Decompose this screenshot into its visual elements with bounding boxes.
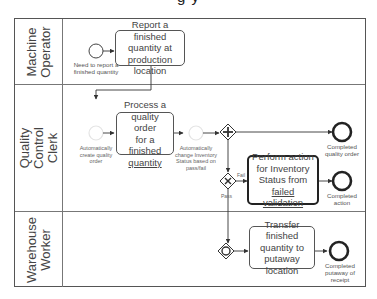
task-transfer-to-putaway[interactable]: Transfer finishedquantity toputaway loca…	[249, 226, 315, 269]
pass-flow-label: Pass	[221, 193, 232, 199]
parallel-gateway-icon	[220, 124, 236, 140]
auto-change-label: Automatically change Inventory Status ba…	[171, 145, 221, 171]
fail-flow-label: Fail	[237, 172, 245, 178]
task-process-quality-order[interactable]: Process aquality orderfor a finishedquan…	[116, 112, 174, 155]
intermediate-event-icon	[89, 126, 103, 140]
exclusive-gateway-icon	[220, 173, 236, 189]
end-putaway-label: Completed putaway of receipt	[320, 262, 360, 284]
auto-create-label: Automatically create quality order	[73, 145, 119, 165]
start-event-icon	[89, 44, 103, 58]
end-action-label: Completed action	[322, 192, 362, 206]
end-quality-order-label: Completed quality order	[319, 143, 365, 157]
end-event-icon	[330, 242, 348, 260]
intermediate-event-icon	[189, 126, 203, 140]
task-report-finished-quantity[interactable]: Report a finishedquantity atproductionlo…	[115, 30, 185, 66]
event-gateway-icon	[218, 243, 234, 259]
end-event-icon	[333, 123, 351, 141]
task-perform-action-inventory-status[interactable]: Perform actionfor InventoryStatus fromfa…	[247, 155, 319, 205]
end-event-icon	[333, 172, 351, 190]
start-event-label: Need to report a finished quantity	[72, 61, 120, 75]
